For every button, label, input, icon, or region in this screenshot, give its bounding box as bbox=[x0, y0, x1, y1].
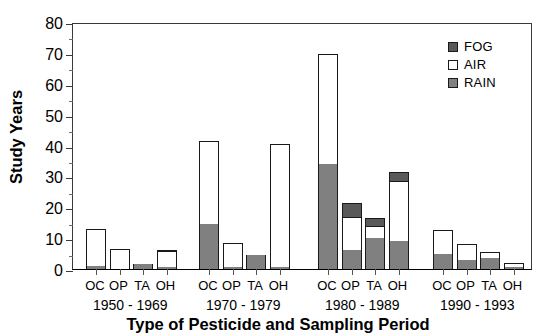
bar-segment-air bbox=[224, 243, 242, 268]
bar-segment-rain bbox=[200, 224, 218, 269]
x-tick bbox=[375, 269, 376, 275]
x-category-label: TA bbox=[247, 278, 263, 293]
bar bbox=[246, 255, 266, 269]
bar bbox=[157, 250, 177, 269]
y-tick-major bbox=[66, 178, 73, 179]
legend-item: AIR bbox=[448, 57, 496, 72]
y-tick-label: 20 bbox=[1, 200, 63, 218]
y-tick-minor bbox=[69, 225, 73, 226]
y-tick-major bbox=[66, 117, 73, 118]
legend-item: RAIN bbox=[448, 75, 496, 90]
bar bbox=[110, 249, 130, 269]
legend-swatch bbox=[448, 60, 458, 70]
legend-item: FOG bbox=[448, 39, 496, 54]
y-tick-major bbox=[66, 24, 73, 25]
bar bbox=[199, 141, 219, 269]
x-category-label: OH bbox=[503, 278, 523, 293]
x-tick bbox=[256, 269, 257, 275]
legend-label: AIR bbox=[464, 57, 486, 72]
y-tick-major bbox=[66, 55, 73, 56]
x-tick bbox=[490, 269, 491, 275]
legend-swatch bbox=[448, 78, 458, 88]
x-category-label: OC bbox=[198, 278, 218, 293]
y-tick-minor bbox=[69, 194, 73, 195]
bar bbox=[86, 229, 106, 269]
y-tick-label: 0 bbox=[1, 262, 63, 280]
bar bbox=[223, 243, 243, 269]
x-tick bbox=[399, 269, 400, 275]
chart-figure: Study Years 01020304050607080 OCOPTAOH19… bbox=[0, 0, 556, 335]
x-axis-title: Type of Pesticide and Sampling Period bbox=[0, 315, 556, 334]
x-category-label: OP bbox=[341, 278, 360, 293]
x-category-label: OP bbox=[456, 278, 475, 293]
x-tick bbox=[143, 269, 144, 275]
bar-segment-fog bbox=[390, 172, 408, 181]
y-tick-minor bbox=[69, 39, 73, 40]
y-tick-minor bbox=[69, 70, 73, 71]
x-category-label: OC bbox=[432, 278, 452, 293]
y-tick-major bbox=[66, 209, 73, 210]
x-category-label: TA bbox=[481, 278, 497, 293]
bar-segment-air bbox=[390, 181, 408, 241]
x-tick bbox=[233, 269, 234, 275]
y-tick-minor bbox=[69, 101, 73, 102]
bar bbox=[457, 244, 477, 269]
x-category-label: TA bbox=[134, 278, 150, 293]
legend-label: FOG bbox=[464, 39, 493, 54]
bar-segment-air bbox=[158, 251, 176, 268]
bar-segment-air bbox=[458, 244, 476, 259]
bar-segment-rain bbox=[458, 260, 476, 269]
chart-legend: FOGAIRRAIN bbox=[448, 39, 496, 90]
y-tick-minor bbox=[69, 256, 73, 257]
legend-label: RAIN bbox=[464, 75, 496, 90]
x-tick bbox=[467, 269, 468, 275]
bar-segment-air bbox=[87, 229, 105, 266]
y-tick-minor bbox=[69, 163, 73, 164]
y-tick-label: 30 bbox=[1, 169, 63, 187]
x-category-label: OH bbox=[388, 278, 408, 293]
x-tick bbox=[96, 269, 97, 275]
x-category-label: TA bbox=[366, 278, 382, 293]
bar-segment-rain bbox=[343, 250, 361, 269]
x-group-label: 1950 - 1969 bbox=[93, 297, 168, 313]
x-tick bbox=[209, 269, 210, 275]
bar-segment-rain bbox=[390, 241, 408, 269]
bar-segment-air bbox=[366, 226, 384, 238]
x-category-label: OC bbox=[85, 278, 105, 293]
x-tick bbox=[280, 269, 281, 275]
x-tick bbox=[352, 269, 353, 275]
y-tick-label: 50 bbox=[1, 108, 63, 126]
y-tick-label: 80 bbox=[1, 15, 63, 33]
x-category-label: OP bbox=[109, 278, 128, 293]
bar bbox=[433, 230, 453, 269]
x-category-label: OH bbox=[156, 278, 176, 293]
x-tick bbox=[120, 269, 121, 275]
bar bbox=[318, 54, 338, 269]
bar bbox=[480, 252, 500, 269]
y-tick-label: 10 bbox=[1, 231, 63, 249]
bar-segment-rain bbox=[247, 255, 265, 269]
bar-segment-air bbox=[200, 141, 218, 224]
x-group-label: 1980 - 1989 bbox=[325, 297, 400, 313]
x-category-label: OH bbox=[269, 278, 289, 293]
bar-segment-air bbox=[505, 263, 523, 268]
y-tick-major bbox=[66, 148, 73, 149]
bar bbox=[365, 218, 385, 269]
y-tick-label: 70 bbox=[1, 46, 63, 64]
x-category-label: OC bbox=[317, 278, 337, 293]
y-tick-minor bbox=[69, 132, 73, 133]
x-category-label: OP bbox=[222, 278, 241, 293]
x-group-label: 1970 - 1979 bbox=[206, 297, 281, 313]
x-tick bbox=[328, 269, 329, 275]
bar-segment-air bbox=[111, 249, 129, 269]
bar-segment-air bbox=[481, 252, 499, 258]
x-tick bbox=[443, 269, 444, 275]
y-tick-major bbox=[66, 240, 73, 241]
y-tick-major bbox=[66, 86, 73, 87]
bar bbox=[389, 172, 409, 269]
bar bbox=[270, 144, 290, 269]
bar-segment-rain bbox=[481, 258, 499, 269]
bar bbox=[342, 203, 362, 269]
y-tick-major bbox=[66, 271, 73, 272]
bar-segment-air bbox=[319, 54, 337, 164]
